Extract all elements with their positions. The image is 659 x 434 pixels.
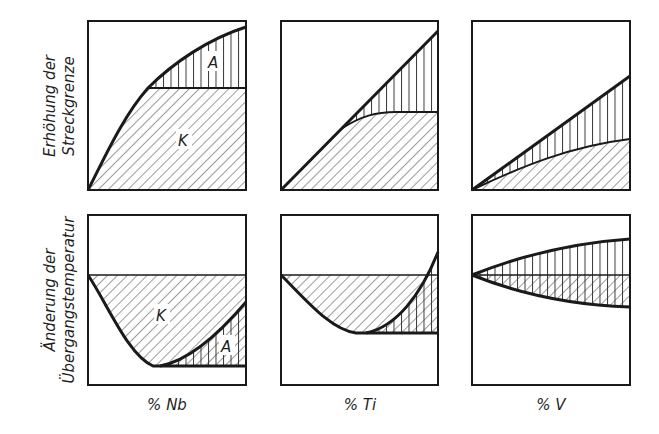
a-region — [148, 27, 246, 88]
k-region-vertical-overlay — [472, 275, 630, 307]
panel-v-transition-temperature — [472, 215, 630, 385]
x-label-v: % V — [472, 396, 630, 414]
panel-nb-transition-temperature: K A — [88, 215, 246, 385]
diagram-canvas: A K K — [0, 0, 659, 434]
k-region — [88, 88, 246, 190]
panel-ti-yield-strength — [281, 21, 438, 190]
panel-ti-transition-temperature — [281, 215, 438, 385]
panel-nb-yield-strength: A K — [88, 21, 246, 190]
label-k: K — [178, 132, 189, 150]
x-label-ti: % Ti — [281, 396, 439, 414]
panel-v-yield-strength — [472, 21, 630, 190]
micro-alloying-effects-figure: Erhöhung der Streckgrenze Änderung der Ü… — [0, 0, 659, 434]
label-a: A — [220, 338, 231, 356]
label-a: A — [207, 54, 218, 72]
a-region — [472, 239, 630, 275]
label-k: K — [156, 307, 167, 325]
k-region — [281, 112, 438, 190]
x-label-nb: % Nb — [88, 396, 246, 414]
